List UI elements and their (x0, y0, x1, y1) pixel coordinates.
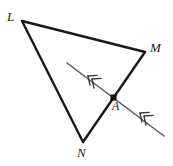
vertex-label-m: M (150, 41, 161, 54)
segment-lm (22, 21, 145, 52)
arrow-mark-upper-left (84, 71, 101, 88)
segment-ln (22, 21, 83, 142)
vertex-label-l: L (7, 10, 14, 23)
point-label-a: A (112, 100, 119, 113)
geometry-figure: L M N A (0, 0, 173, 166)
triangle-lmn (22, 21, 145, 142)
diagram-canvas (0, 0, 173, 166)
vertex-label-n: N (77, 146, 86, 159)
